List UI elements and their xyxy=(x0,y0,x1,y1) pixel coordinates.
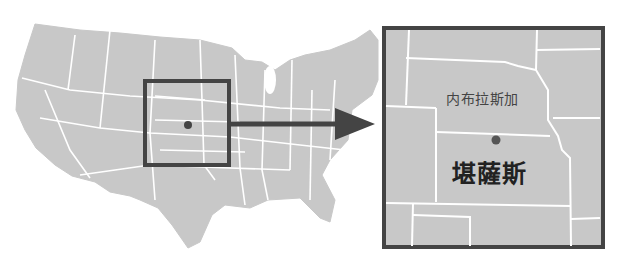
nebraska-label: 内布拉斯加 xyxy=(446,88,519,108)
kansas-marker-small xyxy=(184,121,192,129)
kansas-label: 堪薩斯 xyxy=(452,154,527,189)
kansas-marker xyxy=(492,136,501,145)
detail-panel xyxy=(384,28,603,247)
map-canvas xyxy=(0,0,618,267)
us-overview-map xyxy=(16,24,378,248)
